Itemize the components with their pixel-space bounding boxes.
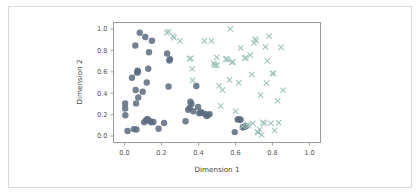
y-tick-label: 0.6 <box>97 68 108 76</box>
scatter-plot-svg: 0.00.20.40.60.81.0 0.00.20.40.60.81.0 Di… <box>0 0 420 196</box>
y-tick-label: 0.8 <box>97 47 108 55</box>
y-tick-label: 0.0 <box>97 132 108 140</box>
x-axis-tick-labels: 0.00.20.40.60.81.0 <box>119 149 314 157</box>
y-axis-tick-labels: 0.00.20.40.60.81.0 <box>97 25 108 140</box>
data-point-circle <box>135 69 141 75</box>
x-tick-label: 0.6 <box>230 149 241 157</box>
data-point-circle <box>165 83 171 89</box>
data-point-circle <box>132 87 138 93</box>
data-point-circle <box>188 101 194 107</box>
data-point-circle <box>140 89 146 95</box>
data-point-circle <box>144 79 150 85</box>
data-point-circle <box>133 126 139 132</box>
data-point-circle <box>135 94 141 100</box>
data-point-circle <box>146 49 152 55</box>
x-tick-label: 0.8 <box>267 149 278 157</box>
data-point-circle <box>122 105 128 111</box>
y-axis-label: Dimension 2 <box>75 59 84 104</box>
data-point-circle <box>132 42 138 48</box>
y-tick-label: 0.2 <box>97 111 108 119</box>
data-point-circle <box>237 117 243 123</box>
x-tick-label: 0.2 <box>156 149 167 157</box>
y-tick-label: 0.4 <box>97 90 108 98</box>
data-point-circle <box>155 126 161 132</box>
data-point-circle <box>232 129 238 135</box>
data-point-circle <box>129 74 135 80</box>
data-point-circle <box>150 119 156 125</box>
data-point-circle <box>206 111 212 117</box>
data-point-circle <box>164 50 170 56</box>
data-point-circle <box>124 128 130 134</box>
data-point-circle <box>145 66 151 72</box>
data-point-circle <box>190 108 196 114</box>
x-axis-label: Dimension 1 <box>194 165 239 174</box>
data-point-circle <box>193 83 199 89</box>
data-point-circle <box>149 38 155 44</box>
x-tick-label: 1.0 <box>304 149 315 157</box>
data-point-circle <box>137 29 143 35</box>
data-point-circle <box>161 120 167 126</box>
data-point-circle <box>142 34 148 40</box>
data-point-circle <box>182 118 188 124</box>
data-point-circle <box>133 100 139 106</box>
x-tick-label: 0.4 <box>193 149 204 157</box>
y-tick-label: 1.0 <box>97 25 108 33</box>
x-tick-label: 0.0 <box>119 149 130 157</box>
scatter-plot-figure: 0.00.20.40.60.81.0 0.00.20.40.60.81.0 Di… <box>0 0 420 196</box>
data-point-circle <box>167 56 173 62</box>
data-point-circle <box>122 112 128 118</box>
